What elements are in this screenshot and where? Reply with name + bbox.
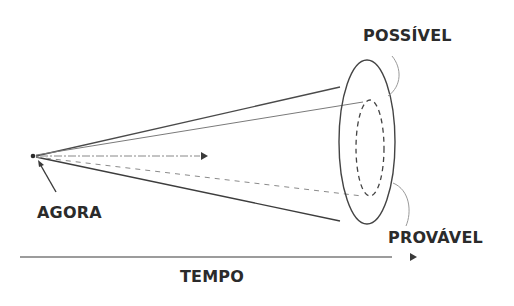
cone-graphic bbox=[0, 0, 514, 306]
now-pointer-line bbox=[40, 164, 56, 192]
possible-connector bbox=[388, 56, 399, 96]
probable-lower-dashed-line bbox=[36, 157, 362, 196]
futures-cone-diagram: POSSÍVEL PROVÁVEL AGORA TEMPO bbox=[0, 0, 514, 306]
direction-arrow-head-icon bbox=[201, 152, 208, 160]
now-label: AGORA bbox=[37, 205, 102, 221]
time-label: TEMPO bbox=[180, 269, 244, 285]
time-axis-arrow-icon bbox=[410, 253, 417, 261]
probable-upper-line bbox=[36, 102, 363, 155]
now-point bbox=[31, 154, 36, 159]
probable-ellipse bbox=[356, 100, 384, 196]
probable-connector bbox=[393, 183, 409, 226]
now-pointer-head-icon bbox=[38, 160, 44, 167]
possible-ellipse bbox=[339, 60, 395, 224]
possible-label: POSSÍVEL bbox=[363, 28, 452, 44]
probable-label: PROVÁVEL bbox=[388, 230, 483, 246]
possible-upper-line bbox=[36, 87, 340, 156]
